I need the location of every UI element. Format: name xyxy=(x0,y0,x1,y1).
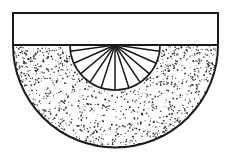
stipple-dot xyxy=(210,69,211,70)
stipple-dot xyxy=(156,121,157,122)
stipple-dot xyxy=(164,74,166,76)
stipple-dot xyxy=(128,130,129,131)
stipple-dot xyxy=(19,65,21,67)
stipple-dot xyxy=(36,104,38,106)
stipple-dot xyxy=(163,70,164,71)
stipple-dot xyxy=(118,136,119,137)
stipple-dot xyxy=(196,88,198,90)
stipple-dot xyxy=(124,90,125,91)
stipple-dot xyxy=(47,87,49,89)
stipple-dot xyxy=(93,131,95,133)
stipple-dot xyxy=(213,48,214,49)
stipple-dot xyxy=(19,74,20,75)
stipple-dot xyxy=(24,58,25,59)
stipple-dot xyxy=(61,128,62,129)
stipple-dot xyxy=(215,48,216,49)
stipple-dot xyxy=(197,61,198,62)
stipple-dot xyxy=(137,91,138,92)
stipple-dot xyxy=(41,47,43,49)
stipple-dot xyxy=(82,117,83,118)
stipple-dot xyxy=(98,139,99,140)
stipple-dot xyxy=(169,119,170,120)
stipple-dot xyxy=(55,60,56,61)
stipple-dot xyxy=(167,76,168,77)
stipple-dot xyxy=(143,109,145,111)
stipple-dot xyxy=(173,52,175,54)
stipple-dot xyxy=(79,96,80,97)
stipple-dot xyxy=(166,128,167,129)
stipple-dot xyxy=(158,81,159,82)
stipple-dot xyxy=(150,84,151,85)
stipple-dot xyxy=(57,61,58,62)
stipple-dot xyxy=(87,128,88,129)
stipple-dot xyxy=(167,68,169,70)
stipple-dot xyxy=(61,61,62,62)
stipple-dot xyxy=(160,65,162,67)
stipple-dot xyxy=(194,98,196,100)
stipple-dot xyxy=(142,93,143,94)
stipple-dot xyxy=(53,71,55,73)
stipple-dot xyxy=(63,93,64,94)
stipple-dot xyxy=(148,115,149,116)
stipple-dot xyxy=(147,95,148,96)
stipple-dot xyxy=(159,75,160,76)
stipple-dot xyxy=(178,81,179,82)
stipple-dot xyxy=(147,135,148,136)
stipple-dot xyxy=(120,96,122,98)
stipple-dot xyxy=(69,75,70,76)
stipple-dot xyxy=(82,82,83,83)
stipple-dot xyxy=(95,140,96,141)
stipple-dot xyxy=(26,73,27,74)
stipple-dot xyxy=(19,67,20,68)
stipple-dot xyxy=(153,78,154,79)
stipple-dot xyxy=(107,108,108,109)
stipple-dot xyxy=(91,108,93,110)
stipple-dot xyxy=(62,77,63,78)
stipple-dot xyxy=(159,95,160,96)
stipple-dot xyxy=(186,107,187,108)
stipple-dot xyxy=(137,123,138,124)
stipple-dot xyxy=(198,68,199,69)
stipple-dot xyxy=(64,100,66,102)
stipple-dot xyxy=(84,129,85,130)
stipple-dot xyxy=(37,52,38,53)
stipple-dot xyxy=(33,50,34,51)
stipple-dot xyxy=(160,63,161,64)
stipple-dot xyxy=(79,80,81,82)
stipple-dot xyxy=(163,131,165,133)
stipple-dot xyxy=(53,95,54,96)
stipple-dot xyxy=(80,115,82,117)
stipple-dot xyxy=(86,137,87,138)
stipple-dot xyxy=(82,111,83,112)
stipple-dot xyxy=(170,46,171,47)
stipple-dot xyxy=(86,99,88,101)
stipple-dot xyxy=(82,78,84,80)
stipple-dot xyxy=(93,140,94,141)
stipple-dot xyxy=(192,109,193,110)
stipple-dot xyxy=(25,80,26,81)
stipple-dot xyxy=(155,133,156,134)
stipple-dot xyxy=(146,103,147,104)
stipple-dot xyxy=(153,133,155,135)
stipple-dot xyxy=(66,124,67,125)
stipple-dot xyxy=(168,108,169,109)
stipple-dot xyxy=(185,116,186,117)
stipple-dot xyxy=(192,55,193,56)
stipple-dot xyxy=(172,105,174,107)
stipple-dot xyxy=(90,135,91,136)
stipple-dot xyxy=(166,61,167,62)
stipple-dot xyxy=(83,98,85,100)
stipple-dot xyxy=(67,69,69,71)
stipple-dot xyxy=(168,46,169,47)
stipple-dot xyxy=(193,47,194,48)
stipple-dot xyxy=(82,95,83,96)
stipple-dot xyxy=(184,110,186,112)
stipple-dot xyxy=(63,109,65,111)
stipple-dot xyxy=(35,99,36,100)
stipple-dot xyxy=(155,96,157,98)
stipple-dot xyxy=(138,107,139,108)
stipple-dot xyxy=(178,48,180,50)
stipple-dot xyxy=(56,81,58,83)
stipple-dot xyxy=(81,114,82,115)
stipple-dot xyxy=(175,63,176,64)
